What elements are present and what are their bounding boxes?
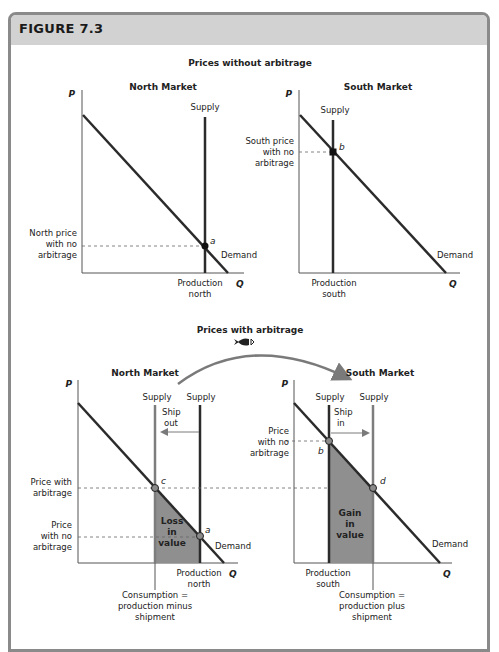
production-label-line2: north bbox=[188, 579, 211, 589]
supply-left-label: Supply bbox=[316, 392, 345, 402]
demand-label: Demand bbox=[221, 250, 257, 260]
q-axis-label: Q bbox=[236, 279, 244, 289]
p-axis-label: P bbox=[65, 379, 72, 389]
shipment-arc-arrow bbox=[178, 355, 348, 384]
production-label-line1: Production bbox=[177, 278, 222, 288]
price-no-arbitrage-line2: with no bbox=[258, 437, 289, 447]
price-no-arbitrage-line1: Price bbox=[51, 520, 72, 530]
consumption-label-line2: production plus bbox=[339, 601, 405, 611]
ship-out-line2: out bbox=[164, 418, 179, 428]
south-market-no-arbitrage: South Market P Q Supply b Demand South p… bbox=[245, 82, 473, 299]
price-with-arbitrage-line1: Price with bbox=[31, 477, 72, 487]
south-market-title: South Market bbox=[346, 368, 415, 378]
gain-in-value-area bbox=[329, 441, 373, 563]
point-c-label: c bbox=[161, 476, 166, 486]
supply-label: Supply bbox=[321, 105, 350, 115]
loss-label-line1: Loss bbox=[161, 516, 184, 526]
equilibrium-point-a bbox=[202, 243, 209, 250]
point-b-label: b bbox=[339, 142, 345, 152]
price-no-arbitrage-line1: Price bbox=[268, 426, 289, 436]
consumption-label-line2: production minus bbox=[118, 601, 193, 611]
supply-right-label: Supply bbox=[360, 392, 389, 402]
production-label-line2: south bbox=[316, 579, 340, 589]
north-market-no-arbitrage: North Market P Q Supply a Demand North p… bbox=[29, 82, 257, 299]
consumption-label-line1: Consumption = bbox=[339, 590, 405, 600]
fish-icon bbox=[234, 338, 254, 345]
south-market-with-arbitrage: South Market P Q Supply Supply Ship in b… bbox=[250, 368, 468, 622]
demand-label: Demand bbox=[215, 541, 251, 551]
point-a-label: a bbox=[210, 236, 216, 246]
point-d bbox=[370, 485, 377, 492]
gain-label-line1: Gain bbox=[339, 508, 362, 518]
production-label-line1: Production bbox=[311, 278, 356, 288]
point-b-label: b bbox=[318, 446, 324, 456]
production-label-line2: south bbox=[322, 289, 346, 299]
north-market-title: North Market bbox=[129, 82, 197, 92]
point-a bbox=[197, 533, 204, 540]
price-no-arbitrage-line3: arbitrage bbox=[33, 542, 72, 552]
q-axis-label: Q bbox=[449, 279, 457, 289]
equilibrium-point-b bbox=[330, 149, 337, 156]
point-d-label: d bbox=[380, 476, 386, 486]
bottom-section-title: Prices with arbitrage bbox=[197, 325, 304, 335]
gain-label-line3: value bbox=[336, 530, 364, 540]
consumption-label-line3: shipment bbox=[135, 612, 175, 622]
p-axis-label: P bbox=[68, 89, 75, 99]
demand-label: Demand bbox=[437, 250, 473, 260]
point-b bbox=[326, 438, 333, 445]
price-label-line2: with no bbox=[46, 239, 77, 249]
supply-label: Supply bbox=[191, 102, 220, 112]
consumption-label-line3: shipment bbox=[352, 612, 392, 622]
gain-label-line2: in bbox=[345, 519, 355, 529]
top-section-title: Prices without arbitrage bbox=[188, 58, 312, 68]
supply-left-label: Supply bbox=[143, 392, 172, 402]
demand-curve bbox=[300, 115, 446, 273]
price-label-line2: with no bbox=[263, 147, 294, 157]
price-no-arbitrage-line3: arbitrage bbox=[250, 448, 289, 458]
point-c bbox=[152, 485, 159, 492]
q-axis-label: Q bbox=[229, 569, 237, 579]
q-axis-label: Q bbox=[443, 569, 451, 579]
price-label-line1: North price bbox=[29, 228, 77, 238]
production-label-line1: Production bbox=[305, 568, 350, 578]
consumption-label-line1: Consumption = bbox=[122, 590, 188, 600]
point-a-label: a bbox=[205, 525, 211, 535]
ship-in-line2: in bbox=[337, 418, 345, 428]
p-axis-label: P bbox=[285, 89, 292, 99]
north-market-title: North Market bbox=[111, 368, 179, 378]
south-market-title: South Market bbox=[344, 82, 413, 92]
p-axis-label: P bbox=[281, 379, 288, 389]
price-label-line3: arbitrage bbox=[255, 158, 294, 168]
supply-right-label: Supply bbox=[187, 392, 216, 402]
price-label-line1: South price bbox=[245, 136, 294, 146]
production-label-line1: Production bbox=[176, 568, 221, 578]
price-no-arbitrage-line2: with no bbox=[41, 531, 72, 541]
ship-out-line1: Ship bbox=[162, 407, 181, 417]
price-label-line3: arbitrage bbox=[38, 250, 77, 260]
loss-label-line3: value bbox=[158, 538, 186, 548]
production-label-line2: north bbox=[189, 289, 212, 299]
demand-label: Demand bbox=[432, 539, 468, 549]
loss-label-line2: in bbox=[167, 527, 177, 537]
price-with-arbitrage-line2: arbitrage bbox=[33, 488, 72, 498]
ship-in-line1: Ship bbox=[334, 407, 353, 417]
